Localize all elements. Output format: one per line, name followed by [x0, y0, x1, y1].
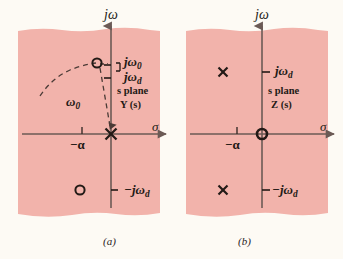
label-minus-j-omega-d-sub-a: d — [145, 189, 150, 199]
panel-b-fill — [186, 28, 328, 217]
real-axis-label-b: σ — [320, 120, 326, 133]
pole-zero-figure: jω σ jω0 jωd −jωd ω0 −α s plane Y (s) (a… — [0, 0, 343, 259]
label-minus-j-omega-d-a: −jωd — [124, 183, 150, 199]
label-j-omega-zero-base-a: jω — [124, 54, 137, 69]
panel-b-region — [186, 28, 328, 217]
function-label-a: Y (s) — [120, 100, 141, 111]
label-minus-alpha-b: −α — [225, 138, 240, 151]
label-minus-alpha-a: −α — [70, 138, 85, 151]
label-minus-j-omega-d-b: −jωd — [272, 183, 298, 199]
caption-b: (b) — [238, 236, 251, 247]
function-label-b: Z (s) — [271, 100, 292, 111]
label-minus-j-omega-d-base-a: −jω — [124, 182, 145, 197]
label-minus-j-omega-d-sub-b: d — [293, 189, 298, 199]
imaginary-axis-label-b: jω — [255, 8, 269, 22]
real-axis-label-a: σ — [152, 120, 158, 133]
label-minus-j-omega-d-base-b: −jω — [272, 182, 293, 197]
imaginary-axis-label-a: jω — [104, 8, 118, 22]
label-j-omega-d-a: jωd — [124, 70, 142, 86]
plane-label-a: s plane — [117, 86, 148, 97]
label-j-omega-d-b: jωd — [275, 64, 293, 80]
label-omega-zero-base-a: ω — [66, 94, 75, 109]
figure-canvas — [0, 0, 343, 259]
label-j-omega-d-sub-b: d — [288, 70, 293, 80]
label-j-omega-d-base-b: jω — [275, 63, 288, 78]
label-j-omega-d-base-a: jω — [124, 69, 137, 84]
label-omega-zero-a: ω0 — [66, 95, 80, 111]
label-omega-zero-sub-a: 0 — [75, 101, 80, 111]
plane-label-b: s plane — [268, 86, 299, 97]
caption-a: (a) — [103, 236, 116, 247]
